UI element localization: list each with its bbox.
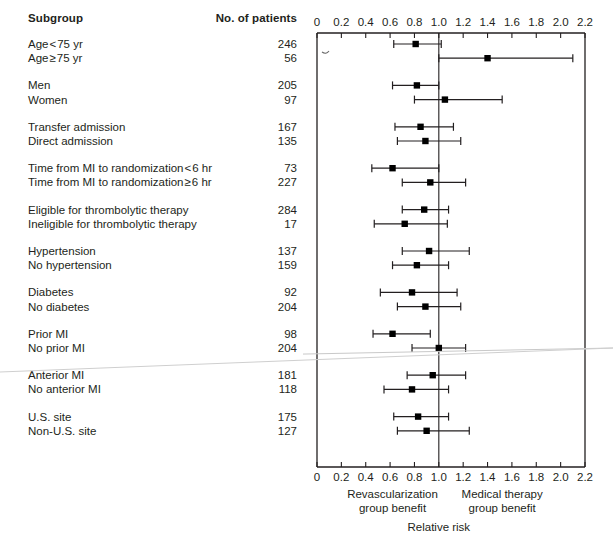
point-estimate-marker (409, 289, 415, 295)
column-header-no-of-patients: No. of patients (216, 12, 297, 24)
column-header-subgroup: Subgroup (28, 12, 83, 24)
axis-tick-label-bottom: 1.6 (504, 471, 520, 483)
patient-count: 137 (278, 245, 297, 257)
table-row: Eligible for thrombolytic therapy284 (0, 204, 303, 218)
axis-tick-label-top: 0.4 (358, 16, 375, 28)
table-row: Age<75 yr246 (0, 38, 303, 52)
patient-count: 56 (284, 52, 297, 64)
axis-tick-label-top: 1.6 (504, 16, 520, 28)
axis-tick-label-bottom: 0 (314, 471, 320, 483)
relation-symbol: ≥ (48, 52, 56, 64)
subgroup-label: Transfer admission (28, 121, 125, 133)
patient-count: 227 (278, 176, 297, 188)
point-estimate-marker (414, 262, 420, 268)
forest-row (380, 288, 457, 296)
subgroup-label: Eligible for thrombolytic therapy (28, 204, 188, 216)
point-estimate-marker (423, 428, 429, 434)
subgroup-label: Hypertension (28, 245, 96, 257)
forest-row (397, 427, 469, 435)
patient-count: 175 (278, 411, 297, 423)
point-estimate-marker (427, 179, 433, 185)
table-row: Prior MI98 (0, 328, 303, 342)
forest-row (372, 164, 439, 172)
subgroup-label: No diabetes (28, 301, 89, 313)
axis-tick-label-bottom: 0.8 (406, 471, 422, 483)
patient-count: 118 (279, 383, 297, 395)
forest-row (402, 247, 469, 255)
point-estimate-marker (412, 41, 418, 47)
forest-plot-panel: 000.20.20.40.40.60.60.80.81.01.01.21.21.… (303, 0, 613, 546)
table-header-row: Subgroup No. of patients (0, 12, 303, 28)
axis-tick-label-top: 1.4 (480, 16, 497, 28)
point-estimate-marker (417, 124, 423, 130)
patient-count: 246 (278, 38, 297, 50)
table-row: Age≥75 yr56 (0, 52, 303, 66)
axis-tick-label-top: 2.2 (577, 16, 593, 28)
table-row: Direct admission135 (0, 135, 303, 149)
axis-tick-label-bottom: 1.0 (431, 471, 447, 483)
subgroup-label: Direct admission (28, 135, 113, 147)
table-row: No hypertension159 (0, 259, 303, 273)
point-estimate-marker (409, 386, 415, 392)
point-estimate-marker (422, 303, 428, 309)
point-estimate-marker (414, 82, 420, 88)
table-row: Time from MI to randomization<6 hr73 (0, 162, 303, 176)
forest-row (395, 123, 453, 131)
subgroup-label: Non-U.S. site (28, 425, 96, 437)
subgroup-label: Prior MI (28, 328, 68, 340)
axis-tick-label-top: 0 (314, 16, 320, 28)
patient-count: 181 (278, 369, 297, 381)
axis-tick-label-top: 0.2 (333, 16, 349, 28)
patient-count: 92 (284, 286, 297, 298)
patient-count: 205 (278, 79, 297, 91)
subgroup-label: Time from MI to randomization<6 hr (28, 162, 212, 174)
patient-count: 127 (278, 425, 297, 437)
forest-row (374, 220, 447, 228)
subgroup-label: No hypertension (28, 259, 112, 271)
subgroup-label: Age≥75 yr (28, 52, 82, 64)
patient-count: 135 (278, 135, 297, 147)
left-benefit-caption-line1: Revascularization (347, 488, 438, 500)
table-row: Diabetes92 (0, 286, 303, 300)
table-row: Hypertension137 (0, 245, 303, 259)
point-estimate-marker (426, 248, 432, 254)
point-estimate-marker (389, 331, 395, 337)
forest-row (397, 303, 460, 311)
subgroup-label: Men (28, 79, 50, 91)
relation-symbol: ≥ (184, 176, 192, 188)
patient-count: 98 (284, 328, 297, 340)
patient-count: 97 (284, 94, 297, 106)
subgroup-label: U.S. site (28, 411, 71, 423)
right-benefit-caption-line1: Medical therapy (462, 488, 543, 500)
forest-row (393, 261, 449, 269)
forest-row (397, 137, 460, 145)
axis-tick-label-bottom: 0.2 (333, 471, 349, 483)
subgroup-label: Ineligible for thrombolytic therapy (28, 218, 197, 230)
forest-row (407, 371, 465, 379)
axis-title: Relative risk (407, 521, 470, 533)
patient-count: 284 (278, 204, 297, 216)
axis-tick-label-bottom: 0.6 (382, 471, 398, 483)
forest-row (394, 40, 442, 48)
subgroup-label: No anterior MI (28, 383, 101, 395)
forest-row (402, 178, 465, 186)
table-row: Ineligible for thrombolytic therapy17 (0, 218, 303, 232)
table-row: Transfer admission167 (0, 121, 303, 135)
axis-tick-label-top: 0.6 (382, 16, 398, 28)
point-estimate-marker (442, 96, 448, 102)
subgroup-table: Subgroup No. of patients Age<75 yr246Age… (0, 0, 303, 546)
axis-tick-label-bottom: 2.2 (577, 471, 593, 483)
subgroup-label: Anterior MI (28, 369, 84, 381)
forest-row (393, 81, 439, 89)
table-row: No diabetes204 (0, 301, 303, 315)
patient-count: 167 (278, 121, 297, 133)
patient-count: 159 (278, 259, 297, 271)
axis-tick-label-bottom: 1.8 (528, 471, 544, 483)
point-estimate-marker (389, 165, 395, 171)
table-row: Men205 (0, 79, 303, 93)
table-row: U.S. site175 (0, 411, 303, 425)
axis-tick-label-top: 1.2 (455, 16, 471, 28)
subgroup-label: No prior MI (28, 342, 85, 354)
relation-symbol: < (184, 162, 193, 174)
subgroup-label: Time from MI to randomization≥6 hr (28, 176, 212, 188)
